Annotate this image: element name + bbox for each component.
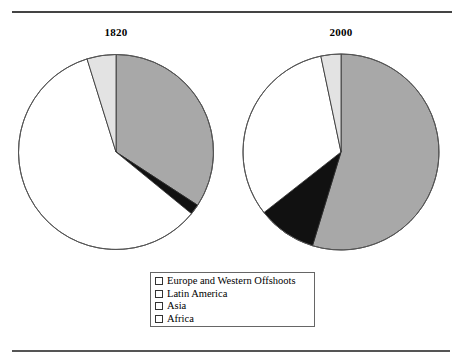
figure-canvas: 1820 2000 Europe and Western Offshoots L…	[0, 0, 460, 354]
pie-svg-2000	[241, 52, 441, 252]
chart-legend: Europe and Western Offshoots Latin Ameri…	[150, 272, 315, 327]
pie-svg-1820	[16, 52, 216, 252]
light-gray-swatch-icon	[155, 315, 163, 323]
legend-item-asia: Asia	[155, 300, 311, 313]
pie-chart-2000	[241, 52, 441, 252]
legend-label-africa: Africa	[167, 313, 194, 325]
pie-slices-1820	[18, 55, 213, 250]
legend-label-asia: Asia	[167, 300, 186, 312]
white-swatch-icon	[155, 302, 163, 310]
legend-item-africa: Africa	[155, 313, 311, 326]
top-rule	[12, 11, 452, 13]
legend-item-europe: Europe and Western Offshoots	[155, 275, 311, 288]
pie-slices-2000	[243, 54, 439, 250]
legend-item-latin-america: Latin America	[155, 288, 311, 301]
gray-swatch-icon	[155, 277, 163, 285]
legend-label-europe: Europe and Western Offshoots	[167, 275, 296, 287]
pie-title-2000: 2000	[301, 26, 381, 38]
pie-title-1820: 1820	[76, 26, 156, 38]
pie-chart-1820	[16, 52, 216, 252]
bottom-rule	[12, 350, 450, 352]
legend-label-latin-america: Latin America	[167, 288, 227, 300]
black-swatch-icon	[155, 290, 163, 298]
